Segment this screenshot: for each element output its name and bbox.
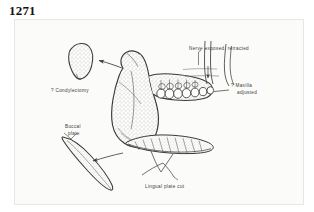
- buccal-plate-arrow: [93, 153, 123, 161]
- label-buccal-plate-line2: plate: [68, 131, 80, 136]
- label-nerve-exposed-retracted: Nerve exposed, retracted: [189, 46, 249, 51]
- label-maxilla-adjusted-line1: ? Maxilla: [231, 83, 252, 88]
- label-lingual-plate-cut: Lingual plate cut: [145, 184, 185, 189]
- surgical-illustration: ? Condylectomy Nerve exposed, retracted …: [15, 20, 303, 204]
- buccal-plate-fragment: [62, 137, 113, 190]
- figure-number: 1271: [9, 4, 36, 17]
- condyle-fragment: [69, 43, 93, 79]
- label-buccal-plate-line1: Buccal: [65, 124, 81, 129]
- illustration-plate: ? Condylectomy Nerve exposed, retracted …: [14, 19, 304, 205]
- label-condylectomy: ? Condylectomy: [51, 88, 89, 93]
- mandible-body: [112, 51, 213, 147]
- maxilla-arrow: [214, 90, 229, 92]
- figure-page: 1271: [0, 0, 314, 212]
- lingual-plate-leader-lines: [142, 151, 178, 180]
- nerve-leader-line: [199, 51, 202, 66]
- lingual-plate-cut: [126, 135, 213, 154]
- label-maxilla-adjusted-line2: adjusted: [237, 90, 257, 95]
